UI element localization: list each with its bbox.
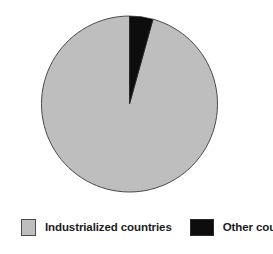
pie-chart-figure: Industrialized countries Other countries xyxy=(0,0,273,254)
legend-item-industrialized-countries[interactable]: Industrialized countries xyxy=(21,219,172,236)
pie-slices-group xyxy=(42,16,218,192)
legend-item-other-countries[interactable]: Other countries xyxy=(190,219,273,236)
pie-chart-svg xyxy=(0,0,273,210)
pie-plot-area xyxy=(0,0,273,210)
legend-label-other-countries: Other countries xyxy=(223,221,273,234)
legend-swatch-black-icon xyxy=(190,219,214,236)
legend-label-industrialized-countries: Industrialized countries xyxy=(45,221,172,234)
chart-legend: Industrialized countries Other countries xyxy=(0,214,273,240)
legend-swatch-gray-icon xyxy=(21,219,36,236)
